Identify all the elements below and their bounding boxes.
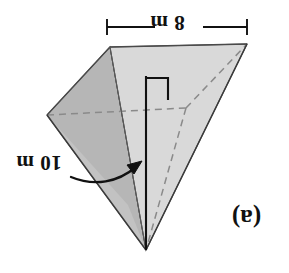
height-dimension-label: 10 m: [16, 152, 62, 173]
pyramid-diagram: [0, 0, 289, 273]
figure-container: 8 m 10 m (a): [0, 0, 289, 273]
part-label: (a): [232, 206, 261, 231]
width-dimension-label: 8 m: [150, 12, 185, 33]
